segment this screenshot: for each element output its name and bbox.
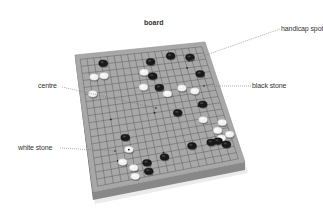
stone-highlight [101, 74, 104, 76]
stone-highlight [168, 54, 171, 56]
stone-highlight [200, 102, 203, 104]
hoshi-point [154, 112, 156, 114]
stone-body [143, 159, 152, 166]
stone-body [118, 159, 127, 166]
stone-body [144, 168, 153, 175]
leader-dot [203, 85, 205, 87]
stone-body [218, 119, 227, 126]
stone-body [148, 73, 157, 80]
stone-body [155, 84, 164, 91]
leader-dot [155, 107, 157, 109]
stone-highlight [227, 132, 230, 134]
stone-highlight [148, 60, 151, 62]
stone-body [146, 58, 155, 65]
stone-highlight [187, 55, 190, 57]
label-black-stone: black stone [252, 82, 286, 89]
stone-highlight [209, 140, 212, 142]
stone-highlight [141, 85, 144, 87]
stone-body [140, 69, 149, 76]
label-handicap-spot: handicap spot [281, 25, 323, 32]
stone-highlight [123, 136, 126, 138]
hoshi-point [163, 152, 165, 154]
stone-highlight [131, 166, 134, 168]
hoshi-point [110, 119, 112, 121]
diagram-title: board [144, 19, 163, 26]
stone-highlight [162, 155, 165, 157]
stone-highlight [150, 74, 153, 76]
stone-body [163, 90, 172, 97]
stone-body [173, 110, 182, 117]
stone-highlight [146, 169, 149, 171]
stone-highlight [200, 118, 203, 120]
stone-highlight [192, 89, 195, 91]
stone-body [213, 127, 222, 134]
stone-highlight [120, 160, 123, 162]
stone-highlight [198, 72, 201, 74]
stone-highlight [224, 142, 227, 144]
stone-body [214, 138, 223, 145]
label-centre: centre [38, 82, 57, 89]
stone-body [90, 74, 99, 81]
stone-highlight [215, 129, 218, 131]
leader-dot [114, 150, 116, 152]
leader-dot [188, 60, 190, 62]
stone-marker [128, 149, 130, 151]
stone-highlight [215, 139, 218, 141]
stone-highlight [220, 121, 223, 123]
stone-body [121, 134, 130, 141]
stone-body [222, 141, 231, 148]
stone-body [99, 60, 108, 67]
stone-body [129, 164, 138, 171]
stone-highlight [144, 161, 147, 163]
stone-body [196, 70, 205, 77]
stone-highlight [179, 86, 182, 88]
stone-highlight [133, 174, 136, 176]
stone-body [188, 143, 197, 150]
stone-body [177, 85, 186, 92]
stone-highlight [175, 111, 178, 113]
stone-body [166, 53, 175, 60]
stone-body [198, 101, 207, 108]
stone-body [100, 73, 109, 80]
hoshi-point [186, 67, 188, 69]
stone-body [225, 131, 234, 138]
stone-body [139, 84, 148, 91]
stone-highlight [157, 86, 160, 88]
stone-highlight [189, 144, 192, 146]
label-white-stone: white stone [18, 144, 52, 151]
stone-body [160, 154, 169, 161]
stone-body [190, 88, 199, 95]
stone-body [199, 116, 208, 123]
stone-body [131, 173, 140, 180]
stone-highlight [101, 61, 104, 63]
stone-highlight [165, 92, 168, 94]
stone-body [88, 91, 97, 98]
stone-highlight [141, 70, 144, 72]
stone-highlight [91, 75, 94, 77]
